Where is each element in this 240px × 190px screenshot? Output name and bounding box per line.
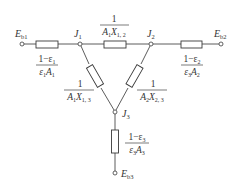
label-j2: J2 bbox=[147, 28, 155, 40]
label-space-2-3: 1 A2X2, 3 bbox=[137, 79, 167, 103]
node-j2 bbox=[149, 42, 153, 46]
label-eb2: Eb2 bbox=[213, 28, 227, 40]
node-labels: Eb1 J1 J2 Eb2 J3 Eb3 bbox=[14, 28, 227, 180]
svg-text:A1X1, 3: A1X1, 3 bbox=[66, 92, 91, 103]
resistance-labels: 1−ε1 ε1A1 1 A1X1, 2 1−ε2 ε3A2 1 A1X1, 3 … bbox=[36, 14, 203, 156]
wire-r23-j3 bbox=[116, 88, 128, 110]
node-j3 bbox=[113, 110, 117, 114]
svg-text:1: 1 bbox=[78, 79, 83, 89]
resistor-surface-2 bbox=[181, 41, 202, 48]
label-surface-1: 1−ε1 ε1A1 bbox=[36, 54, 58, 78]
svg-text:ε3A3: ε3A3 bbox=[129, 145, 145, 156]
label-j1: J1 bbox=[74, 28, 82, 40]
node-j1 bbox=[78, 42, 82, 46]
label-surface-2: 1−ε2 ε3A2 bbox=[181, 54, 203, 78]
label-eb3: Eb3 bbox=[120, 168, 134, 180]
svg-text:1−ε1: 1−ε1 bbox=[38, 54, 55, 65]
label-space-1-2: 1 A1X1, 2 bbox=[100, 14, 129, 38]
resistor-space-1-3 bbox=[86, 65, 103, 88]
svg-text:A2X2, 3: A2X2, 3 bbox=[139, 92, 164, 103]
svg-text:1: 1 bbox=[112, 14, 117, 24]
svg-text:1−ε3: 1−ε3 bbox=[128, 132, 145, 143]
svg-text:1: 1 bbox=[151, 79, 156, 89]
node-eb1 bbox=[20, 42, 24, 46]
resistors bbox=[36, 41, 202, 153]
wire-r13-j3 bbox=[101, 88, 114, 110]
label-j3: J3 bbox=[122, 108, 130, 120]
svg-text:1−ε2: 1−ε2 bbox=[183, 54, 200, 65]
resistor-surface-1 bbox=[36, 41, 58, 48]
resistor-space-2-3 bbox=[126, 65, 143, 88]
label-surface-3: 1−ε3 ε3A3 bbox=[125, 132, 149, 156]
wire-j1-r13 bbox=[81, 46, 89, 64]
label-eb1: Eb1 bbox=[14, 28, 28, 40]
svg-text:ε1A1: ε1A1 bbox=[39, 67, 55, 78]
svg-text:A1X1, 2: A1X1, 2 bbox=[101, 27, 126, 38]
wire-j2-r23 bbox=[141, 46, 150, 64]
svg-text:ε3A2: ε3A2 bbox=[184, 67, 200, 78]
node-eb2 bbox=[219, 42, 223, 46]
node-eb3 bbox=[113, 171, 117, 175]
resistor-surface-3 bbox=[112, 130, 119, 153]
resistor-space-1-2 bbox=[104, 41, 126, 48]
radiation-network-diagram: Eb1 J1 J2 Eb2 J3 Eb3 1−ε1 ε1A1 1 A1X1, 2… bbox=[0, 0, 240, 190]
label-space-1-3: 1 A1X1, 3 bbox=[64, 79, 94, 103]
